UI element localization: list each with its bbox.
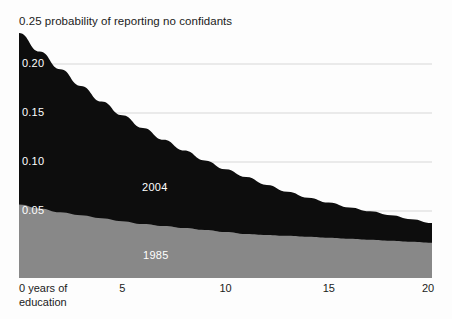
chart-page: 0.25 probability of reporting no confida… — [0, 0, 452, 319]
x-axis-label-origin-line1: 0 years of — [19, 282, 67, 296]
y-axis-label-020: 0.20 — [22, 57, 44, 69]
x-axis-label-origin: 0 years of education — [19, 282, 67, 309]
x-axis-tick-10: 10 — [219, 282, 231, 294]
y-axis-label-015: 0.15 — [22, 106, 44, 118]
x-axis-label-origin-line2: education — [19, 296, 67, 310]
series-label-1985: 1985 — [143, 249, 169, 261]
x-axis-tick-5: 5 — [119, 282, 125, 294]
y-axis-label-010: 0.10 — [22, 155, 44, 167]
series-label-2004: 2004 — [142, 181, 168, 193]
x-axis-tick-20: 20 — [422, 282, 434, 294]
area-chart-svg — [19, 33, 432, 278]
plot-area: 0.20 0.15 0.10 0.05 2004 1985 — [19, 33, 432, 278]
x-axis-tick-15: 15 — [323, 282, 335, 294]
y-axis-label-005: 0.05 — [22, 204, 44, 216]
chart-title: 0.25 probability of reporting no confida… — [19, 15, 232, 27]
